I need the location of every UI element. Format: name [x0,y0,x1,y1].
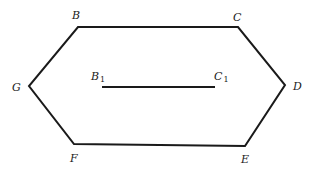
vertex-label-f: F [69,152,78,165]
point-label-c1-letter: C [214,70,223,83]
vertex-label-e: E [240,153,249,166]
point-label-b1-letter: B [90,70,99,83]
vertex-label-d: D [292,80,302,93]
vertex-label-g: G [12,81,21,94]
hexagon-diagram: B C D E F G B1 C1 [0,0,315,174]
point-label-c1-subscript: 1 [223,75,228,84]
vertex-label-c: C [233,11,242,24]
point-label-b1-subscript: 1 [100,75,105,84]
vertex-label-b: B [71,9,80,22]
point-label-b1: B1 [90,70,105,84]
point-label-c1: C1 [214,70,229,84]
